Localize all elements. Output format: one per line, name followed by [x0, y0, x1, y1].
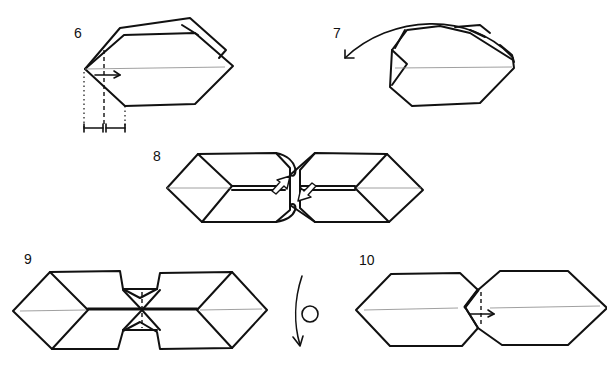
step-10-right-crease [490, 306, 600, 308]
step-7-left-pocket [392, 50, 407, 85]
step-10-join-edge [465, 290, 478, 307]
step-6-measure-markers [84, 124, 125, 132]
step-10-figure [356, 271, 607, 346]
step-6-center-crease [85, 67, 225, 69]
step-10-left-crease [364, 308, 458, 310]
step-9-figure [13, 271, 318, 349]
step-9-left-crease [20, 310, 86, 311]
step-10-arrow-right-icon [470, 310, 494, 317]
step-8-figure [167, 153, 423, 222]
turn-over-icon [293, 276, 318, 346]
step-8-right-unit [300, 153, 423, 222]
step-7-curved-arrow-icon [345, 24, 513, 58]
step-7-center-crease [395, 67, 512, 68]
step-7-figure [345, 24, 514, 106]
step-7-hexagon [390, 26, 514, 106]
step-6-back-flap [85, 18, 226, 69]
step-9-right-crease [200, 309, 262, 310]
step-6-figure [84, 18, 233, 132]
step-7-edge [395, 30, 405, 48]
step-6-arrow-right-icon [95, 71, 120, 78]
origami-diagram [0, 0, 607, 381]
step-8-left-unit [167, 153, 290, 222]
step-10-right-hexagon [465, 271, 607, 345]
